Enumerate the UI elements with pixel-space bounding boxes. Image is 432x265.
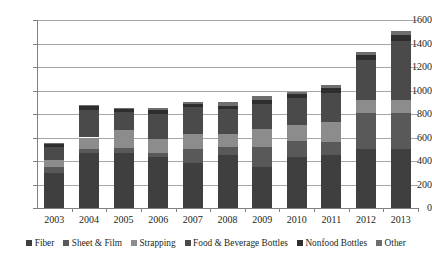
bar-segment[interactable] [114,112,134,130]
legend-item[interactable]: Food & Beverage Bottles [185,238,288,248]
bar-stack[interactable] [44,20,64,208]
bar-segment[interactable] [252,100,272,104]
bar-segment[interactable] [114,130,134,148]
bar-stack[interactable] [321,20,341,208]
bar-stack[interactable] [287,20,307,208]
bar-segment[interactable] [287,125,307,141]
bar-segment[interactable] [356,113,376,149]
x-axis-line [37,208,419,209]
bar-segment[interactable] [218,102,238,106]
bar-segment[interactable] [287,157,307,208]
legend-swatch-icon [297,240,303,246]
x-tick-mark [176,208,177,212]
legend-swatch-icon [63,240,69,246]
bar-segment[interactable] [44,144,64,147]
legend-item[interactable]: Nonfood Bottles [297,238,367,248]
bar-segment[interactable] [321,93,341,122]
bar-segment[interactable] [218,134,238,148]
x-tick-mark [106,208,107,212]
bar-segment[interactable] [183,163,203,208]
bar-segment[interactable] [79,106,99,110]
bar-segment[interactable] [252,167,272,208]
bar-segment[interactable] [183,134,203,149]
bar-segment[interactable] [44,143,64,144]
bar-segment[interactable] [44,147,64,161]
bar-stack[interactable] [252,20,272,208]
x-tick-mark [141,208,142,212]
bar-segment[interactable] [183,107,203,134]
bar-segment[interactable] [79,153,99,208]
legend-label: Other [385,238,406,248]
bar-segment[interactable] [321,155,341,208]
bar-segment[interactable] [114,109,134,112]
x-tick-label: 2013 [379,214,423,225]
bar-stack[interactable] [183,20,203,208]
bar-segment[interactable] [183,102,203,104]
bar-segment[interactable] [321,122,341,141]
bar-segment[interactable] [148,108,168,110]
chart-legend: FiberSheet & FilmStrappingFood & Beverag… [0,236,432,250]
bar-segment[interactable] [287,98,307,125]
y-tick-label: 1000 [400,86,432,96]
bar-segment[interactable] [321,85,341,88]
legend-label: Food & Beverage Bottles [193,238,288,248]
bar-segment[interactable] [114,148,134,153]
bar-segment[interactable] [218,109,238,134]
bar-segment[interactable] [287,141,307,157]
bar-segment[interactable] [183,149,203,164]
bar-segment[interactable] [321,88,341,93]
y-tick-mark [33,44,37,45]
bar-segment[interactable] [287,94,307,98]
legend-item[interactable]: Strapping [131,238,176,248]
legend-label: Fiber [35,238,55,248]
bar-segment[interactable] [287,92,307,94]
bar-segment[interactable] [321,142,341,156]
legend-item[interactable]: Other [376,238,406,248]
y-tick-label: 200 [400,180,432,190]
bar-segment[interactable] [252,147,272,168]
bar-segment[interactable] [148,157,168,208]
bar-stack[interactable] [114,20,134,208]
bar-segment[interactable] [218,147,238,154]
bar-segment[interactable] [391,31,411,36]
bar-segment[interactable] [148,153,168,158]
legend-item[interactable]: Fiber [26,238,54,248]
bar-segment[interactable] [356,55,376,60]
bar-segment[interactable] [148,139,168,153]
legend-swatch-icon [26,240,32,246]
bar-segment[interactable] [44,160,64,166]
bar-segment[interactable] [356,100,376,113]
legend-item[interactable]: Sheet & Film [63,238,122,248]
bar-segment[interactable] [356,52,376,55]
bar-segment[interactable] [252,104,272,129]
bar-stack[interactable] [79,20,99,208]
y-tick-mark [33,20,37,21]
bar-segment[interactable] [218,106,238,110]
bar-stack[interactable] [356,20,376,208]
bar-segment[interactable] [79,105,99,106]
bar-segment[interactable] [79,138,99,149]
bar-segment[interactable] [183,104,203,107]
bar-segment[interactable] [79,110,99,138]
bar-segment[interactable] [148,110,168,114]
bar-segment[interactable] [218,155,238,208]
bar-segment[interactable] [44,173,64,208]
bar-segment[interactable] [252,129,272,147]
y-tick-label: 1600 [400,15,432,25]
bar-stack[interactable] [148,20,168,208]
plot-area [37,20,418,208]
stacked-bar-chart: 02004006008001000120014001600 2003200420… [0,0,432,265]
y-tick-mark [33,161,37,162]
bar-segment[interactable] [356,149,376,208]
bar-segment[interactable] [114,108,134,109]
bar-segment[interactable] [44,167,64,173]
bar-segment[interactable] [79,149,99,153]
y-tick-label: 800 [400,109,432,119]
bar-stack[interactable] [218,20,238,208]
bar-segment[interactable] [356,60,376,100]
x-tick-mark [418,208,419,212]
bar-segment[interactable] [148,114,168,139]
bar-segment[interactable] [114,153,134,208]
legend-label: Strapping [139,238,175,248]
bar-segment[interactable] [252,96,272,100]
